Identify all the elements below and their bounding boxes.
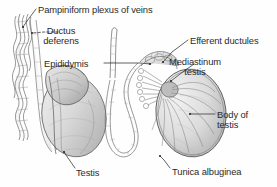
label-pampiniform-line-0: Pampiniform plexus of veins [38,5,153,15]
label-epididymis-line-0: Epididymis [44,59,88,69]
leader-efferent-endpoint [162,61,164,63]
leader-ductus-endpoint [31,32,33,34]
anatomy-figure: Pampiniform plexus of veinsDuctusdeferen… [0,0,277,187]
leader-lines [0,0,277,187]
label-pampiniform: Pampiniform plexus of veins [38,5,153,15]
leader-tunica-endpoint [159,155,161,157]
label-testis: Testis [76,168,99,178]
label-body: Body oftestis [217,110,248,131]
leader-epididymis-endpoint [149,63,151,65]
leader-testis [64,152,75,168]
leader-pampiniform [23,9,36,27]
leader-body-endpoint [189,113,191,115]
label-ductus: Ductusdeferens [43,26,79,47]
leader-epididymis [104,63,150,64]
label-efferent-line-0: Efferent ductules [190,36,258,46]
label-ductus-line-1: deferens [43,36,79,46]
label-mediastinum: Mediastinumtestis [169,57,221,78]
label-tunica: Tunica albuginea [172,167,241,177]
leader-mediastinum-endpoint [170,80,172,82]
label-tunica-line-0: Tunica albuginea [172,167,241,177]
leader-testis-endpoint [63,151,65,153]
label-efferent: Efferent ductules [190,36,258,46]
label-testis-line-0: Testis [76,168,99,178]
leader-pampiniform-endpoint [22,26,24,28]
label-mediastinum-line-1: testis [169,67,221,77]
label-body-line-1: testis [217,120,248,130]
label-epididymis: Epididymis [44,59,88,69]
leader-tunica [160,156,170,168]
